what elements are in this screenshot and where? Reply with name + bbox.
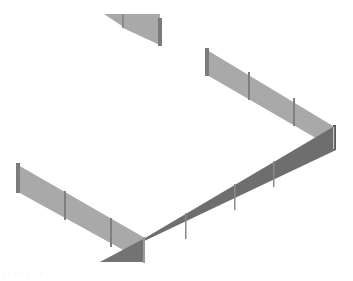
- caption-text: · · · · · · ·: [2, 270, 43, 277]
- wall-render-canvas: [0, 0, 353, 281]
- left-wall: [16, 163, 145, 262]
- top-wall-fragment: [104, 14, 162, 46]
- right-back-wall: [205, 48, 333, 148]
